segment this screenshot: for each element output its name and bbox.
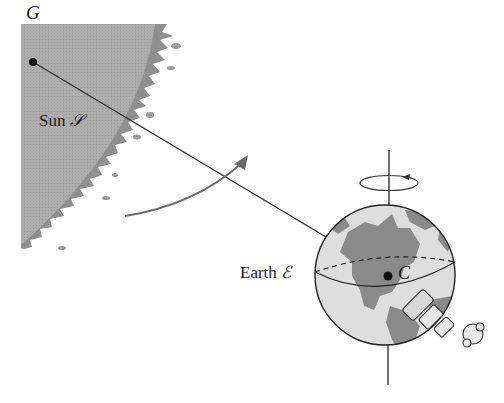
- label-earth-name: Earth: [240, 263, 277, 282]
- label-sun-symbol: 𝒮: [70, 111, 83, 130]
- orbit-arrow: [125, 155, 248, 216]
- diagram-canvas: [0, 0, 504, 403]
- label-sun: Sun 𝒮: [39, 111, 83, 131]
- point-c-dot: [384, 272, 393, 281]
- sun-body: [21, 24, 181, 250]
- sun-disk: [21, 24, 155, 245]
- label-point-c: C: [398, 263, 410, 284]
- label-sun-name: Sun: [39, 111, 65, 130]
- point-g-dot: [29, 58, 37, 66]
- label-point-g: G: [26, 2, 40, 24]
- label-earth-symbol: ℰ: [281, 263, 291, 282]
- label-earth: Earth ℰ: [240, 262, 291, 283]
